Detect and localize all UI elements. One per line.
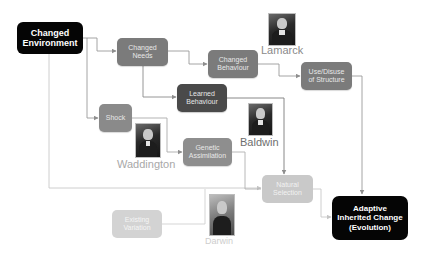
node-natural-selection-line1: Natural <box>273 181 302 189</box>
node-changed-environment: Changed Environment <box>17 22 83 54</box>
node-use-disuse-line2: of Structure <box>308 76 344 84</box>
node-use-disuse-line1: Use/Disuse <box>308 68 344 76</box>
node-adaptive-line1: Adaptive <box>337 204 402 213</box>
node-natural-selection-line2: Selection <box>273 189 302 197</box>
node-changed-needs: Changed Needs <box>117 38 168 66</box>
node-learned-behaviour-line1: Learned <box>186 90 218 98</box>
node-changed-environment-line1: Changed <box>22 28 77 38</box>
node-genetic-assimilation-line1: Genetic <box>189 144 226 152</box>
label-darwin: Darwin <box>205 236 233 246</box>
node-changed-behaviour-line2: Behaviour <box>217 64 249 72</box>
node-changed-needs-line2: Needs <box>128 52 156 60</box>
node-adaptive-inherited-change: Adaptive Inherited Change (Evolution) <box>332 196 408 240</box>
evolution-diagram: Changed Environment Changed Needs Change… <box>0 0 424 258</box>
node-existing-variation-line1: Existing <box>123 216 150 224</box>
node-changed-behaviour: Changed Behaviour <box>208 50 258 78</box>
portrait-baldwin-icon <box>248 103 273 136</box>
node-adaptive-line2: Inherited Change <box>337 213 402 222</box>
portrait-darwin-icon <box>209 194 235 236</box>
node-changed-behaviour-line1: Changed <box>217 56 249 64</box>
node-changed-needs-line1: Changed <box>128 44 156 52</box>
node-genetic-assimilation-line2: Assimilation <box>189 152 226 160</box>
node-learned-behaviour-line2: Behaviour <box>186 98 218 106</box>
node-changed-environment-line2: Environment <box>22 38 77 48</box>
portrait-waddington-icon <box>135 123 161 158</box>
node-learned-behaviour: Learned Behaviour <box>177 84 227 112</box>
label-waddington: Waddington <box>117 158 175 170</box>
node-shock: Shock <box>99 104 132 132</box>
node-use-disuse: Use/Disuse of Structure <box>301 62 352 90</box>
node-existing-variation-line2: Variation <box>123 224 150 232</box>
node-existing-variation: Existing Variation <box>112 210 162 238</box>
label-lamarck: Lamarck <box>261 44 303 56</box>
node-shock-line1: Shock <box>106 114 125 122</box>
label-baldwin: Baldwin <box>240 136 279 148</box>
node-natural-selection: Natural Selection <box>262 175 313 203</box>
node-genetic-assimilation: Genetic Assimilation <box>183 138 232 166</box>
node-adaptive-line3: (Evolution) <box>337 223 402 232</box>
portrait-lamarck-icon <box>268 13 296 46</box>
